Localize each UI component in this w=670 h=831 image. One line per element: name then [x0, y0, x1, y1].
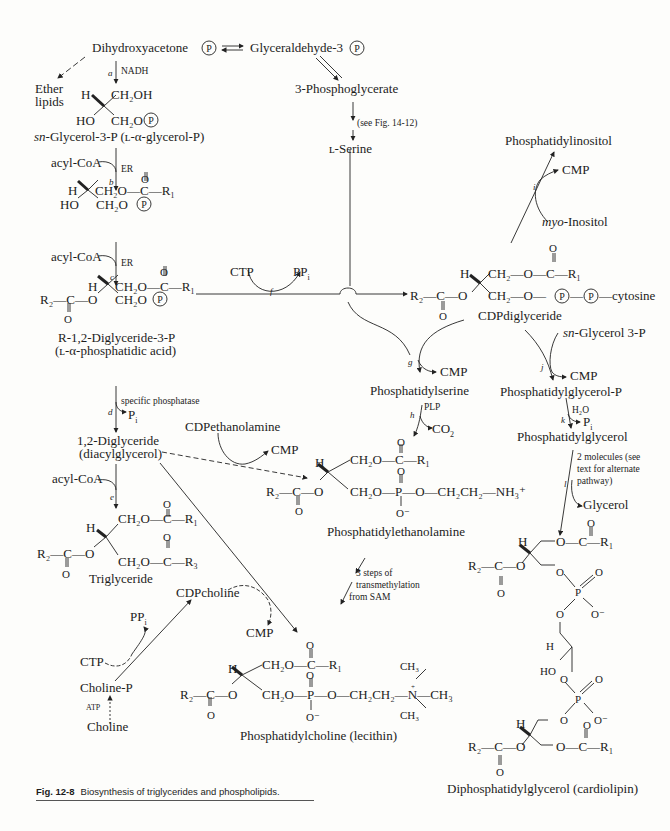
product-cmp-g: CMP [440, 365, 467, 379]
note-two-molecules-3: pathway) [577, 476, 612, 487]
atom-ho: HO [540, 664, 556, 678]
atom-ho: HO [60, 198, 79, 212]
atom-o-minus: O⁻ [306, 710, 320, 724]
compound-triglyceride: Triglyceride [89, 572, 153, 586]
atom-o: O [207, 708, 215, 722]
location-er-c: ER [121, 258, 133, 269]
atom-ch2o: CH₂O [111, 114, 143, 128]
product-glycerol: Glycerol [583, 498, 628, 512]
reaction-label-j: j [541, 360, 544, 374]
svg-text:P: P [157, 294, 163, 305]
atom-p: P [575, 692, 581, 706]
phosphate-symbol: P [206, 43, 212, 54]
reaction-label-i: i [533, 180, 536, 194]
product-pi-d: Pi [128, 408, 137, 428]
compound-cdp-choline: CDPcholine [176, 586, 240, 600]
compound-serine: ʟ-Serine [329, 142, 372, 156]
product-cmp-choline: CMP [246, 626, 273, 640]
atom-o: O [62, 567, 70, 581]
atom-o: O [556, 565, 564, 579]
atom-h: H [228, 662, 237, 676]
figure-caption: Fig. 12-8Biosynthesis of triglycerides a… [36, 786, 280, 797]
sn-prefix: sn [34, 129, 46, 144]
pathway-figure: P P P P P P P Dihydroxyacetone Glycerald… [0, 0, 670, 831]
acyl-chain-r2: R₂—C—O [37, 547, 94, 561]
reaction-label-l: l [564, 477, 567, 491]
cdp-chain: CH₂—O— [488, 289, 546, 303]
atom-o-minus: O⁻ [594, 713, 608, 727]
atom-ch2o: CH₂O [115, 293, 147, 307]
compound-choline-p: Choline-P [80, 681, 133, 695]
reaction-label-e: e [110, 490, 114, 504]
compound-choline: Choline [87, 720, 128, 734]
atom-h: H [460, 267, 469, 281]
atom-h: H [518, 535, 527, 549]
note-transmethylation-2: transmethylation [356, 580, 420, 591]
acyl-chain-r2: R₂—C—O [468, 740, 525, 754]
compound-phosphatidylglycerol: Phosphatidylglycerol [517, 430, 628, 444]
product-cmp-j: CMP [570, 369, 597, 383]
compound-phosphatidylinositol: Phosphatidylinositol [505, 134, 612, 148]
svg-text:P: P [354, 43, 360, 54]
atom-ho: HO [76, 114, 95, 128]
location-er-b: ER [121, 164, 133, 175]
acyl-chain: O—C—R₁ [556, 740, 613, 754]
atom-p: P [575, 585, 581, 599]
acyl-chain: O—C—R₁ [556, 535, 613, 549]
reaction-label-c: c [110, 270, 114, 284]
product-cmp-ethanolamine: CMP [271, 443, 298, 457]
pathway-arrows: P P P P P P P [0, 0, 670, 831]
reaction-label-a: a [108, 66, 113, 80]
compound-phosphatidylcholine: Phosphatidylcholine (lecithin) [240, 729, 397, 743]
compound-phosphatidic-acid-alt: (ʟ-α-phosphatidic acid) [55, 344, 176, 358]
atom-o: O [397, 464, 405, 478]
atom-o: O [549, 241, 557, 255]
acyl-chain: CH₂—O—C—R₁ [488, 267, 581, 281]
reagent-ppi-f: PPi [293, 265, 310, 285]
caption-rule [36, 800, 314, 801]
svg-text:P: P [588, 291, 594, 302]
atom-o: O [160, 265, 168, 279]
note-transmethylation-1: 3 steps of [356, 568, 392, 579]
acyl-chain-r2: R₂—C—O [468, 559, 525, 573]
atom-o: O [64, 312, 72, 326]
atom-o: O [595, 565, 603, 579]
atom-o: O [163, 497, 171, 511]
note-two-molecules-1: 2 molecules (see [577, 452, 640, 463]
atom-o: O [439, 309, 447, 323]
compound-cdp-diglyceride: CDPdiglyceride [478, 309, 562, 323]
acyl-chain: CH₂O—C—R₁ [118, 512, 198, 526]
reagent-ctp-f: CTP [230, 265, 254, 279]
atom-o: O [397, 435, 405, 449]
reagent-nadh: NADH [121, 66, 148, 77]
cytosine-label: —cytosine [599, 289, 655, 303]
compound-dhap: Dihydroxyacetone [92, 41, 188, 55]
product-ppi-choline: PPi [130, 610, 147, 630]
reaction-label-h: h [410, 408, 415, 422]
compound-cardiolipin: Diphosphatidylglycerol (cardiolipin) [447, 782, 638, 796]
compound-phosphatidylglycerol-p: Phosphatidylglycerol-P [500, 385, 622, 399]
atom-o-minus: O⁻ [591, 607, 605, 621]
pc-headgroup: CH₂O—P—O—CH₂CH₂—N—CH₃ [262, 688, 453, 702]
atom-o: O [583, 718, 591, 732]
atom-o: O [497, 586, 505, 600]
atom-h: H [315, 456, 324, 470]
atom-ch2oh: CH₂OH [111, 88, 152, 102]
compound-sn-glycerol-3p: sn-Glycerol-3-P (ʟ-α-glycerol-P) [34, 130, 204, 144]
reaction-label-k: k [561, 413, 565, 427]
caption-label: Fig. 12-8 [36, 786, 75, 797]
atom-h: H [546, 639, 554, 653]
compound-sn-glycerol-3p-j: sn-Glycerol 3-P [563, 326, 646, 340]
reagent-acyl-coa-c: acyl-CoA [51, 250, 102, 264]
reagent-atp: ATP [86, 702, 100, 713]
atom-o: O [595, 672, 603, 686]
atom-h: H [68, 184, 77, 198]
pe-headgroup: CH₂O—P—O—CH₂CH₂—NH₃⁺ [350, 485, 526, 499]
charge-plus: + [411, 680, 415, 694]
atom-o-minus: O⁻ [396, 506, 410, 520]
product-co2: CO2 [432, 422, 454, 442]
atom-h: H [516, 717, 525, 731]
ether-lipids-line2: lipids [35, 95, 64, 109]
reagent-ctp-choline: CTP [80, 655, 104, 669]
atom-o: O [587, 516, 595, 530]
